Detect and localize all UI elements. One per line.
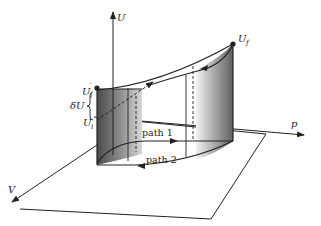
u-axis-label: U <box>117 12 126 23</box>
delta-u-label: δU <box>70 100 85 111</box>
p-axis-label: p <box>291 118 298 129</box>
surface-right-panel <box>196 44 233 159</box>
path-2-label: path 2 <box>146 154 177 165</box>
svg-text:f: f <box>245 39 250 47</box>
label-initial-prime: U i ′ <box>82 82 92 100</box>
thermodynamic-surface-diagram: U p V U f U i ′ U i δU path 1 path 2 <box>0 0 321 226</box>
path-1-label: path 1 <box>142 127 173 138</box>
path-2-arrow <box>137 163 145 169</box>
label-initial: U i <box>83 117 93 131</box>
v-axis <box>12 139 106 202</box>
label-final: U f <box>238 33 250 47</box>
svg-text:′: ′ <box>90 82 92 90</box>
surface-left-panel <box>97 89 142 165</box>
svg-text:i: i <box>90 92 92 100</box>
v-axis-label: V <box>8 184 17 195</box>
point-initial-prime <box>94 85 99 90</box>
point-final <box>230 41 235 46</box>
path-1-arrow <box>170 138 178 144</box>
svg-text:i: i <box>91 123 93 131</box>
